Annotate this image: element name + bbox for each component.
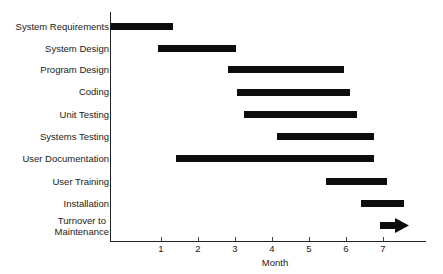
row-label-turnover-line1: Turnover to (58, 215, 106, 226)
tick-label-1: 1 (153, 243, 169, 254)
row-label-installation: Installation (64, 198, 109, 209)
row-label-unit-testing: Unit Testing (60, 109, 109, 120)
bar-coding (237, 89, 350, 96)
bar-program-design (228, 66, 344, 73)
tick-label-7: 7 (375, 243, 391, 254)
tick-3 (235, 237, 236, 241)
x-axis-label: Month (255, 257, 295, 268)
tick-label-6: 6 (338, 243, 354, 254)
bar-system-design (158, 45, 236, 52)
tick-6 (346, 237, 347, 241)
tick-1 (161, 237, 162, 241)
gantt-chart: System Requirements System Design Progra… (0, 0, 443, 274)
tick-label-4: 4 (264, 243, 280, 254)
tick-4 (272, 237, 273, 241)
row-label-turnover-line2: Maintenance (55, 226, 109, 237)
x-axis (110, 241, 426, 242)
bar-unit-testing (244, 111, 357, 118)
tick-7 (383, 237, 384, 241)
y-axis (110, 12, 111, 242)
bar-installation (361, 200, 404, 207)
arrow-turnover-icon (380, 218, 410, 233)
tick-label-2: 2 (190, 243, 206, 254)
bar-user-documentation (176, 155, 374, 162)
tick-label-3: 3 (227, 243, 243, 254)
tick-label-5: 5 (301, 243, 317, 254)
row-label-user-training: User Training (53, 176, 110, 187)
row-label-systems-testing: Systems Testing (40, 131, 109, 142)
row-label-program-design: Program Design (40, 64, 109, 75)
bar-systems-testing (277, 133, 374, 140)
row-label-user-documentation: User Documentation (22, 153, 109, 164)
tick-5 (309, 237, 310, 241)
bar-system-requirements (111, 23, 173, 30)
row-label-coding: Coding (79, 86, 109, 97)
bar-user-training (326, 178, 387, 185)
row-label-system-design: System Design (45, 43, 109, 54)
row-label-system-requirements: System Requirements (16, 21, 109, 32)
tick-2 (198, 237, 199, 241)
